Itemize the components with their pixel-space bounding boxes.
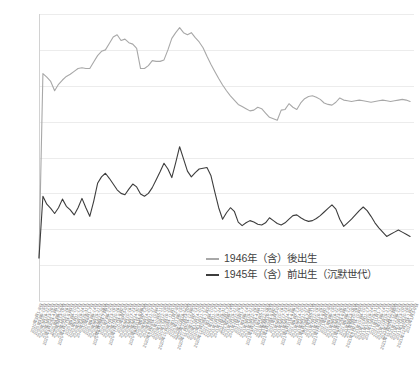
legend-color-swatch-icon [206,274,219,276]
x-axis-labels: 2020年3月1-8日2020年3月9-15日2020年3月16-22日2020… [39,303,414,389]
legend-item-label: 1946年（含）後出生 [224,252,317,265]
legend-item: 1945年（含）前出生（沉默世代） [206,268,377,281]
series-line-1945-before [39,147,410,258]
legend-color-swatch-icon [206,258,219,260]
series-line-1946-after [39,28,410,258]
legend-item: 1946年（含）後出生 [206,252,377,265]
chart-legend: 1946年（含）後出生 1945年（含）前出生（沉默世代） [206,252,377,281]
legend-item-label: 1945年（含）前出生（沉默世代） [224,268,377,281]
line-chart: 4035302520151050 1946年（含）後出生 1945年（含）前出生… [0,0,420,392]
